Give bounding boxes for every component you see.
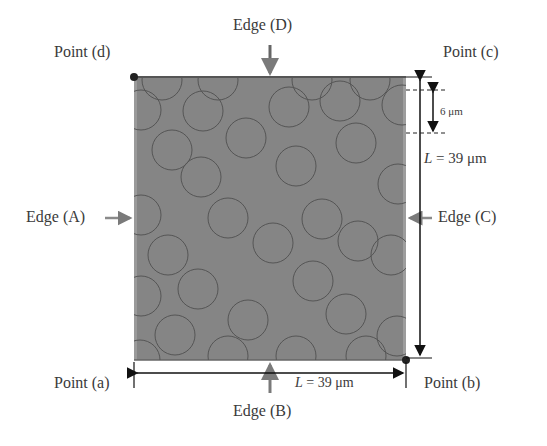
corner-d-dot — [130, 73, 138, 81]
label-fiber-diameter: 6 μm — [440, 105, 463, 117]
label-length-vertical: L = 39 μm — [424, 150, 487, 167]
label-edge-d: Edge (D) — [233, 16, 292, 34]
label-edge-c: Edge (C) — [438, 208, 496, 226]
label-point-a: Point (a) — [54, 374, 110, 392]
label-length-horizontal: L = 39 μm — [295, 375, 354, 391]
label-edge-a: Edge (A) — [26, 208, 85, 226]
label-length-horizontal-text: = 39 μm — [303, 375, 354, 390]
label-edge-b: Edge (B) — [233, 402, 291, 420]
label-point-d: Point (d) — [54, 43, 110, 61]
label-point-c: Point (c) — [443, 43, 499, 61]
label-point-b: Point (b) — [424, 374, 480, 392]
label-length-vertical-text: = 39 μm — [432, 150, 486, 166]
